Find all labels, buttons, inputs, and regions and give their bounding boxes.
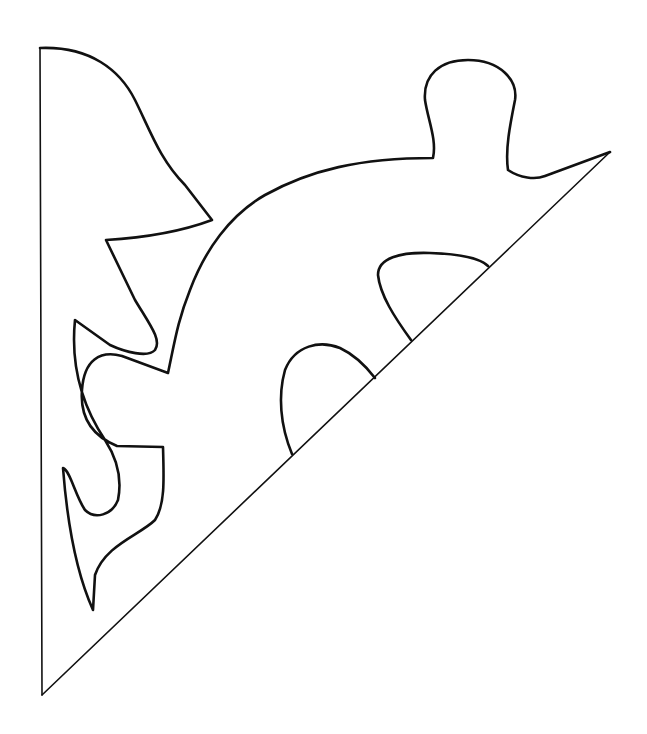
inner-cutout-lower <box>281 344 375 454</box>
outer-cut-outline <box>40 48 610 610</box>
left-fold-edge <box>40 48 42 695</box>
inner-cutout-upper <box>378 253 488 340</box>
diagonal-fold-edge <box>42 152 610 695</box>
snowflake-template-drawing <box>0 0 647 734</box>
